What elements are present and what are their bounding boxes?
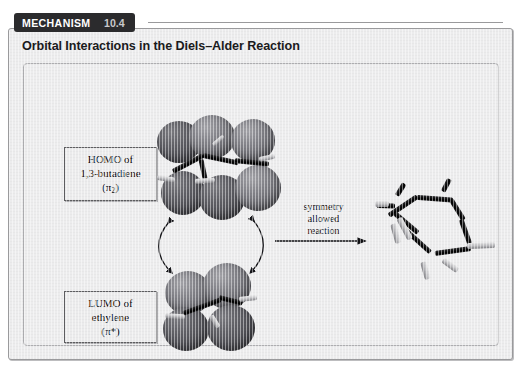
carbon-bond <box>417 195 453 202</box>
product-model-label: cyclohexene ball-and-stick product model <box>375 187 376 188</box>
hydrogen-bond <box>467 242 495 249</box>
orbital-lobe <box>207 305 255 351</box>
mechanism-badge-label: MECHANISM <box>22 17 91 29</box>
hydrogen-bond <box>239 295 257 302</box>
lumo-caption-line-1: LUMO of <box>72 296 149 310</box>
homo-caption-line-2: 1,3-butadiene <box>72 166 149 180</box>
badge-rule-divider <box>148 22 503 23</box>
homo-caption-box: HOMO of 1,3-butadiene (π2) <box>64 147 157 201</box>
mechanism-figure-panel: HOMO of 1,3-butadiene (π2) LUMO of ethyl… <box>8 28 513 360</box>
curved-arrow-left <box>159 222 171 272</box>
carbon-bond <box>435 246 471 256</box>
reaction-condition-label: symmetry allowed reaction <box>271 201 376 238</box>
reaction-arrow-icon <box>271 235 371 247</box>
homo-pi-symbol: (π <box>102 181 111 193</box>
butadiene-model-label: 1,3-butadiene HOMO pi-2 orbital model <box>155 113 156 114</box>
curved-arrow-right <box>251 220 263 272</box>
hydrogen-bond <box>420 261 431 280</box>
homo-paren-close: ) <box>115 181 119 193</box>
lumo-caption-line-2: ethylene <box>72 310 149 324</box>
hydrogen-bond <box>375 201 389 207</box>
butadiene-homo-orbital-model: 1,3-butadiene HOMO pi-2 orbital model <box>155 113 283 225</box>
hydrogen-bond <box>157 175 176 182</box>
homo-caption-line-3: (π2) <box>72 180 149 196</box>
carbon-bond <box>459 219 473 245</box>
homo-caption-line-1: HOMO of <box>72 152 149 166</box>
lumo-caption-box: LUMO of ethylene (π*) <box>64 291 157 343</box>
orbital-interaction-arrows <box>149 212 279 284</box>
orbital-lobe <box>189 115 235 159</box>
lumo-caption-line-3: (π*) <box>72 324 149 338</box>
mechanism-badge: MECHANISM 10.4 <box>14 13 135 32</box>
reaction-arrow-group: symmetry allowed reaction <box>271 201 376 247</box>
carbon-bond <box>449 198 466 221</box>
hydrogen-bond <box>441 258 459 273</box>
reaction-label-line-1: symmetry <box>271 201 376 213</box>
figure-title: Orbital Interactions in the Diels–Alder … <box>22 38 300 53</box>
cyclohexene-product-model: cyclohexene ball-and-stick product model <box>375 187 507 295</box>
reaction-label-line-2: allowed <box>271 213 376 225</box>
mechanism-badge-number: 10.4 <box>104 17 125 29</box>
